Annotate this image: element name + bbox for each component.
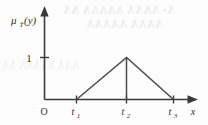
y-axis-arrow-icon [40, 6, 48, 17]
x-axis-arrow-icon [188, 95, 199, 103]
x-tick-label-t1: t [72, 106, 75, 117]
x-tick-label-t3: t [169, 106, 172, 117]
triangular-membership-curve [77, 58, 174, 100]
x-axis-label: x [190, 106, 196, 117]
x-tick-label-t3-subscript: 3 [173, 112, 178, 120]
x-tick-label-t1-subscript: 1 [77, 112, 81, 120]
y-tick-label-1: 1 [26, 52, 32, 64]
membership-function-plot: μ T̃ (y) 1 O t 1 t 2 t 3 x [0, 0, 208, 125]
origin-label: O [40, 106, 47, 117]
x-tick-label-t2: t [122, 106, 125, 117]
y-axis-label-argument: (y) [24, 14, 37, 27]
y-axis-label-mu: μ [10, 14, 17, 26]
x-tick-label-t2-subscript: 2 [127, 112, 131, 120]
figure-root: Ā• ĀĀĀĀ ĀĀĀĀĀ ĀĀ ĀĀĀĀ ĀĀĀĀĀ ĀĀĀ ĀĀĀĀĀ ĀĀ… [0, 0, 208, 125]
